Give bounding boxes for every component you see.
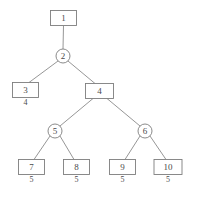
tree-diagram: 1234456758595105	[0, 0, 198, 198]
tree-node-2[interactable]: 2	[56, 49, 70, 63]
tree-node-6[interactable]: 6	[138, 124, 152, 138]
node-label-8: 8	[74, 162, 79, 172]
tree-node-7[interactable]: 75	[19, 160, 45, 185]
node-sublabel-3: 4	[24, 98, 28, 107]
node-label-4: 4	[97, 86, 102, 96]
tree-canvas: 1234456758595105	[0, 0, 198, 198]
node-sublabel-8: 5	[75, 175, 79, 184]
node-sublabel-10: 5	[166, 175, 170, 184]
nodes-group: 1234456758595105	[13, 11, 183, 185]
tree-edge-n5-n7	[34, 136, 50, 160]
node-label-2: 2	[61, 51, 66, 61]
tree-edge-n6-n10	[150, 136, 166, 160]
tree-edge-n2-n4	[68, 61, 95, 84]
node-label-10: 10	[164, 162, 174, 172]
tree-edge-n2-n3	[29, 61, 58, 83]
tree-edge-n6-n9	[125, 136, 140, 160]
node-label-6: 6	[143, 126, 148, 136]
node-sublabel-9: 5	[121, 175, 125, 184]
tree-edge-n5-n8	[60, 136, 74, 160]
tree-node-9[interactable]: 95	[110, 160, 136, 185]
node-sublabel-7: 5	[30, 175, 34, 184]
node-label-9: 9	[120, 162, 125, 172]
node-label-3: 3	[23, 85, 28, 95]
tree-node-3[interactable]: 34	[13, 83, 39, 108]
tree-node-8[interactable]: 85	[64, 160, 90, 185]
tree-edge-n4-n6	[107, 99, 140, 127]
tree-edge-n1-n2	[63, 26, 64, 50]
node-label-1: 1	[61, 13, 66, 23]
node-label-5: 5	[53, 126, 58, 136]
tree-node-1[interactable]: 1	[51, 11, 77, 26]
node-label-7: 7	[29, 162, 34, 172]
tree-edge-n4-n5	[60, 99, 93, 127]
tree-node-5[interactable]: 5	[48, 124, 62, 138]
tree-node-4[interactable]: 4	[86, 84, 114, 99]
tree-node-10[interactable]: 105	[154, 160, 182, 185]
